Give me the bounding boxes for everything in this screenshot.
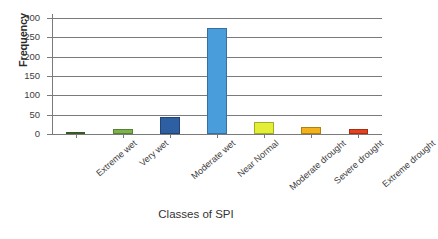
bar <box>301 127 321 134</box>
bar <box>254 122 274 134</box>
y-tick-label: 50 <box>6 110 40 120</box>
y-tick-label: 200 <box>6 52 40 62</box>
plot-area: 050100150200250300 <box>52 18 382 134</box>
x-category-label: Extreme wet <box>94 138 138 178</box>
y-tick <box>47 134 52 135</box>
bar <box>207 28 227 134</box>
x-category-label: Moderate wet <box>189 138 237 181</box>
x-category-labels: Extreme wetVery wetModerate wetNear Norm… <box>52 138 382 200</box>
y-tick-label: 300 <box>6 13 40 23</box>
x-axis-title: Classes of SPI <box>0 208 392 220</box>
y-tick-label: 250 <box>6 32 40 42</box>
bar <box>160 117 180 134</box>
x-category-label: Very wet <box>137 138 170 168</box>
y-tick-label: 100 <box>6 90 40 100</box>
x-category-label: Extreme drought <box>381 138 438 189</box>
bar-series <box>52 18 382 134</box>
y-tick-label: 0 <box>6 129 40 139</box>
y-tick-label: 150 <box>6 71 40 81</box>
x-category-label: Near Normal <box>236 138 281 179</box>
